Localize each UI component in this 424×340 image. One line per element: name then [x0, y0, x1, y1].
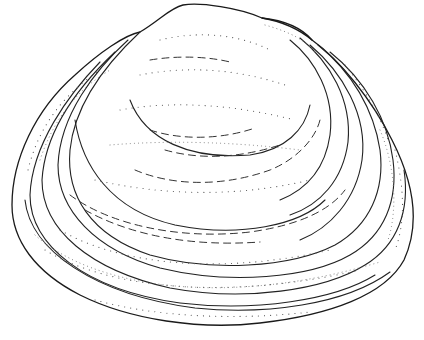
clam-shell-illustration — [0, 0, 424, 340]
shell-outline — [12, 4, 413, 325]
